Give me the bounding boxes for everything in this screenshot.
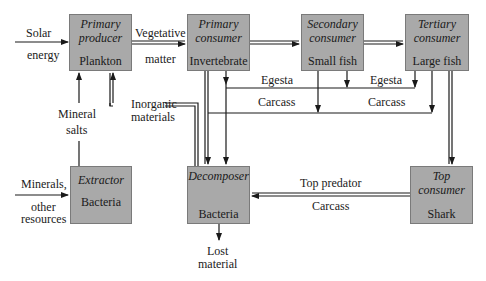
label-energy: energy [27, 48, 59, 62]
primary-producer-role: Primaryproducer [70, 17, 131, 45]
top-consumer-role: Topconsumer [411, 169, 472, 197]
label-lost: Lost [207, 244, 228, 258]
label-salts: salts [66, 123, 87, 137]
label-mineral: Mineral [58, 107, 96, 121]
label-egesta-2: Egesta [370, 73, 402, 87]
primary-consumer-box: Primaryconsumer Invertebrate [187, 14, 250, 71]
secondary-consumer-organism: Small fish [302, 54, 363, 68]
label-carcass-1: Carcass [258, 95, 295, 109]
label-vegetative: Vegetative [135, 26, 186, 40]
label-material: material [198, 257, 237, 271]
decomposer-box: Decomposer Bacteria [187, 166, 250, 224]
primary-consumer-role: Primaryconsumer [188, 17, 249, 45]
label-inorganic: Inorganic [131, 97, 177, 111]
label-materials: materials [131, 110, 175, 124]
extractor-organism: Bacteria [71, 195, 131, 209]
secondary-consumer-box: Secondaryconsumer Small fish [301, 14, 364, 71]
label-top-predator: Top predator [300, 176, 361, 190]
label-resources: resources [21, 212, 66, 226]
decomposer-role: Decomposer [188, 169, 249, 183]
tertiary-consumer-role: Tertiaryconsumer [406, 17, 468, 45]
decomposer-organism: Bacteria [188, 207, 249, 221]
top-consumer-organism: Shark [411, 207, 472, 221]
label-carcass-3: Carcass [312, 199, 349, 213]
top-consumer-box: Topconsumer Shark [410, 166, 473, 224]
label-matter: matter [145, 52, 176, 66]
secondary-consumer-role: Secondaryconsumer [302, 17, 363, 45]
label-carcass-2: Carcass [368, 95, 405, 109]
label-solar: Solar [26, 26, 51, 40]
primary-producer-box: Primaryproducer Plankton [69, 14, 132, 71]
tertiary-consumer-organism: Large fish [406, 54, 468, 68]
extractor-role: Extractor [71, 173, 131, 187]
label-minerals: Minerals, [21, 177, 67, 191]
primary-consumer-organism: Invertebrate [188, 54, 249, 68]
tertiary-consumer-box: Tertiaryconsumer Large fish [405, 14, 469, 71]
extractor-box: Extractor Bacteria [70, 166, 132, 224]
primary-producer-organism: Plankton [70, 54, 131, 68]
label-egesta-1: Egesta [261, 73, 293, 87]
